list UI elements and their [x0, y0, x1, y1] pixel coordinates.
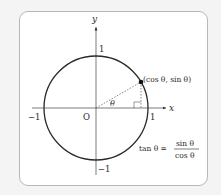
y-tick-neg1: −1	[98, 164, 111, 174]
origin-label: O	[83, 112, 90, 122]
formula-denominator: cos θ	[175, 151, 195, 160]
angle-label: θ	[110, 99, 115, 108]
formula-lhs: tan θ =	[139, 144, 167, 153]
x-tick-1: 1	[150, 112, 155, 122]
y-axis-label: y	[91, 14, 98, 24]
x-axis-label: x	[169, 103, 174, 113]
formula-numerator: sin θ	[176, 139, 194, 148]
point-label: (cos θ, sin θ)	[143, 75, 191, 84]
y-tick-1: 1	[99, 44, 104, 54]
right-angle-marker	[134, 102, 141, 108]
x-tick-neg1: −1	[28, 112, 41, 122]
unit-circle-diagram: y x O −1 1 1 −1 θ (cos θ, sin θ) tan θ =…	[0, 0, 221, 195]
